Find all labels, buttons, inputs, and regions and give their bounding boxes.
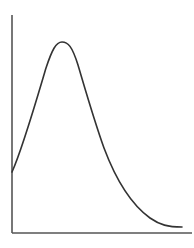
skewed-distribution-chart [0, 0, 194, 248]
distribution-curve [12, 42, 182, 227]
